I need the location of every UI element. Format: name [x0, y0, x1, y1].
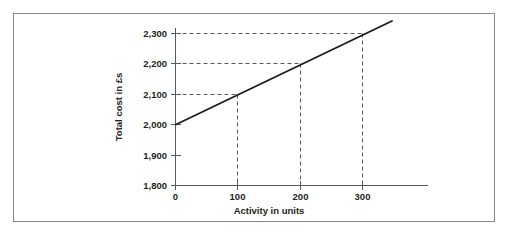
y-tick-label-2200: 2,200: [143, 58, 167, 69]
x-tick-label-300: 300: [355, 191, 371, 202]
y-tick-label-2300: 2,300: [143, 28, 167, 39]
x-tick-label-0: 0: [173, 191, 178, 202]
y-tick-label-1800: 1,800: [143, 180, 167, 191]
total-cost-line: [176, 21, 392, 125]
y-axis-title: Total cost in £s: [113, 73, 124, 141]
x-tick-label-100: 100: [230, 191, 246, 202]
x-axis-title: Activity in units: [234, 205, 305, 216]
y-tick-label-2100: 2,100: [143, 89, 167, 100]
chart-plot: 2,300 2,200 2,100 2,000 1,900 1,800 0 10…: [0, 0, 509, 235]
chart-figure: 2,300 2,200 2,100 2,000 1,900 1,800 0 10…: [0, 0, 509, 235]
y-tick-label-2000: 2,000: [143, 119, 167, 130]
x-tick-label-200: 200: [293, 191, 309, 202]
y-tick-label-1900: 1,900: [143, 150, 167, 161]
